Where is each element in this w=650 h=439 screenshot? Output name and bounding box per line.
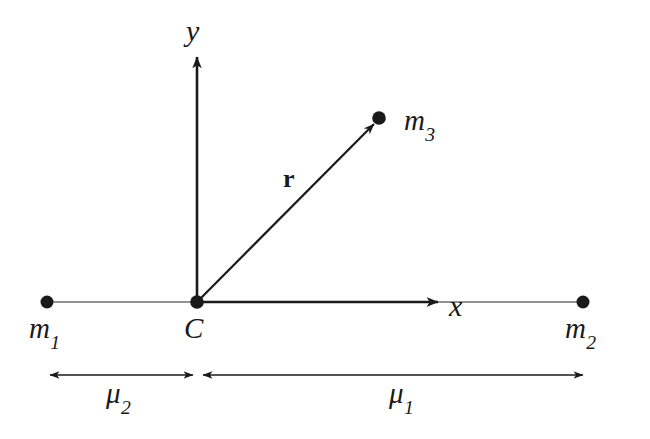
three-body-com-diagram: y x C m1 m2 m3 r μ2 μ1: [0, 0, 650, 439]
position-vector-r: [197, 124, 374, 302]
mass-point-m3: [372, 111, 386, 125]
distance-label-mu1: μ1: [389, 379, 413, 414]
mass-label-m1-sub: 1: [50, 331, 60, 353]
mass-label-m3-sub: 3: [425, 123, 435, 145]
mass-label-m3-base: m: [404, 104, 425, 136]
distance-label-mu2-base: μ: [106, 377, 121, 409]
mass-label-m2: m2: [565, 314, 596, 349]
mass-label-m1-base: m: [29, 312, 50, 344]
distance-label-mu1-base: μ: [389, 377, 404, 409]
mass-point-m1: [41, 296, 54, 309]
mass-label-m2-base: m: [565, 312, 586, 344]
center-of-mass-point-C: [190, 295, 204, 309]
vector-label-r: r: [283, 166, 295, 192]
center-of-mass-label: C: [184, 314, 203, 343]
diagram-canvas: [0, 0, 650, 439]
distance-label-mu2-sub: 2: [121, 396, 131, 418]
mass-point-m2: [577, 296, 590, 309]
distance-label-mu2: μ2: [106, 379, 130, 414]
mass-label-m1: m1: [29, 314, 60, 349]
mass-label-m3: m3: [404, 106, 435, 141]
mass-label-m2-sub: 2: [586, 331, 596, 353]
x-axis-label: x: [449, 291, 462, 321]
distance-label-mu1-sub: 1: [404, 396, 414, 418]
y-axis-label: y: [186, 16, 199, 46]
